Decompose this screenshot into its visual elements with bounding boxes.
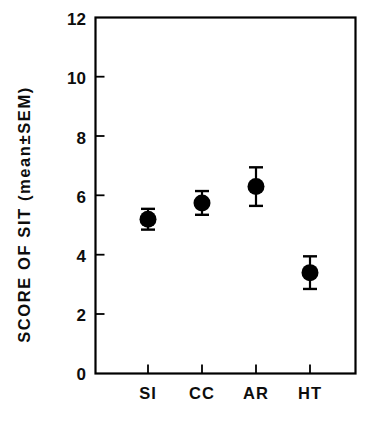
plot-area [0, 0, 384, 429]
marker-filled-circle [302, 264, 319, 281]
axis-frame [96, 18, 356, 374]
x-axis-ticks [148, 365, 310, 374]
x-axis-tick-labels: SI CC AR HT [0, 384, 384, 412]
marker-filled-circle [194, 194, 211, 211]
marker-filled-circle [140, 211, 157, 228]
data-point-cc [194, 191, 211, 215]
chart-figure: SCORE OF SIT (mean±SEM) 12 10 8 6 4 2 0 [0, 0, 384, 429]
x-tick-label-cc: CC [189, 384, 215, 403]
data-point-ar [248, 167, 265, 206]
x-tick-label-si: SI [139, 384, 157, 403]
data-series-score-of-sit [140, 167, 319, 289]
marker-filled-circle [248, 178, 265, 195]
x-tick-label-ht: HT [298, 384, 322, 403]
data-point-ht [302, 256, 319, 289]
y-axis-ticks [96, 77, 105, 314]
data-point-si [140, 209, 157, 230]
x-tick-label-ar: AR [243, 384, 269, 403]
